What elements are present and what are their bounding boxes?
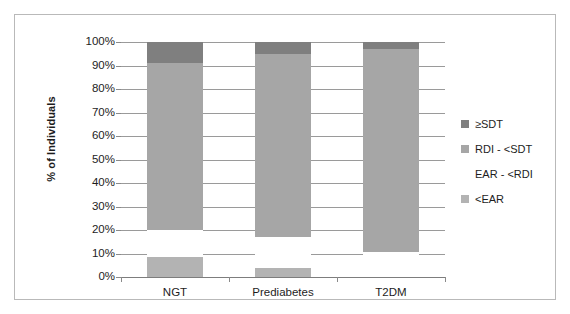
- bar-t2dm: [363, 42, 419, 277]
- y-axis-tick-label: 60%: [55, 129, 115, 141]
- bar-segment: [147, 63, 203, 230]
- y-axis-tick-label: 70%: [55, 106, 115, 118]
- bar-segment: [255, 42, 311, 54]
- y-axis-tick-label: 30%: [55, 200, 115, 212]
- legend-label: RDI - <SDT: [475, 143, 532, 155]
- y-axis-tick-label: 100%: [55, 35, 115, 47]
- y-axis-tick-label: 10%: [55, 247, 115, 259]
- x-axis-tick-mark: [337, 277, 338, 282]
- bar-segment: [255, 237, 311, 268]
- chart-legend: ≥SDTRDI - <SDTEAR - <RDI<EAR: [461, 111, 557, 211]
- chart-frame: % of Individuals 0%10%20%30%40%50%60%70%…: [14, 14, 556, 300]
- y-axis-tick-label: 50%: [55, 153, 115, 165]
- legend-label: EAR - <RDI: [475, 168, 533, 180]
- legend-item: EAR - <RDI: [461, 161, 557, 186]
- plot-area: [121, 42, 445, 277]
- legend-item: <EAR: [461, 186, 557, 211]
- bar-segment: [255, 268, 311, 277]
- bar-segment: [147, 230, 203, 257]
- chart-figure: % of Individuals 0%10%20%30%40%50%60%70%…: [0, 0, 570, 314]
- bar-segment: [363, 252, 419, 277]
- legend-label: <EAR: [475, 193, 504, 205]
- y-axis-tick-label: 90%: [55, 59, 115, 71]
- bar-ngt: [147, 42, 203, 277]
- x-axis-tick-mark: [121, 277, 122, 282]
- bar-segment: [363, 49, 419, 252]
- legend-item: RDI - <SDT: [461, 136, 557, 161]
- y-axis-tick-label: 0%: [55, 270, 115, 282]
- x-axis-line: [121, 277, 445, 278]
- legend-swatch-icon: [461, 145, 469, 153]
- x-axis-tick-mark: [229, 277, 230, 282]
- x-axis-category-label: Prediabetes: [223, 286, 343, 298]
- legend-swatch-icon: [461, 195, 469, 203]
- bar-segment: [255, 54, 311, 237]
- bar-segment: [363, 42, 419, 49]
- y-axis-tick-label: 40%: [55, 176, 115, 188]
- x-axis-tick-mark: [445, 277, 446, 282]
- x-axis-category-label: T2DM: [331, 286, 451, 298]
- legend-swatch-icon: [461, 120, 469, 128]
- legend-label: ≥SDT: [475, 118, 503, 130]
- y-axis-tick-label: 20%: [55, 223, 115, 235]
- legend-swatch-icon: [461, 170, 469, 178]
- bar-prediabetes: [255, 42, 311, 277]
- bar-segment: [147, 257, 203, 277]
- y-axis-tick-label: 80%: [55, 82, 115, 94]
- bar-segment: [147, 42, 203, 63]
- legend-item: ≥SDT: [461, 111, 557, 136]
- x-axis-category-label: NGT: [115, 286, 235, 298]
